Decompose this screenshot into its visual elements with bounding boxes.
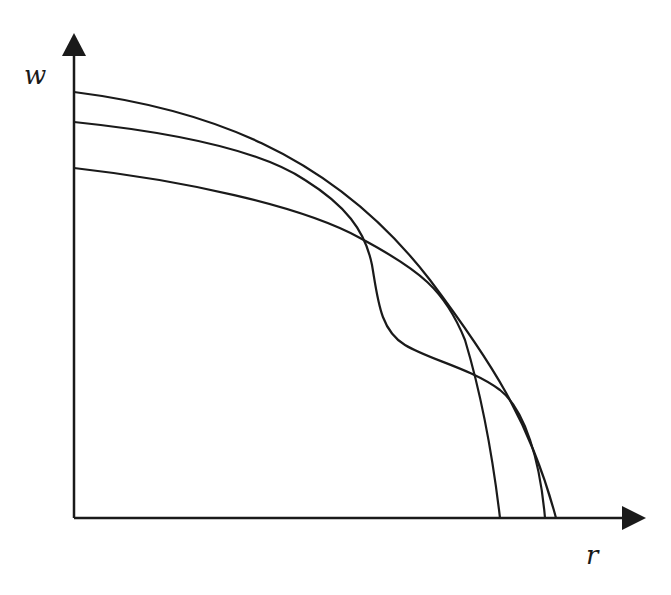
y-axis-arrow-icon (62, 33, 86, 56)
curve-inner (74, 168, 500, 518)
curve-outer-arc (74, 92, 556, 518)
diagram-canvas (0, 0, 671, 595)
x-axis-label: r (586, 540, 598, 570)
curve-wiggly (74, 122, 545, 518)
y-axis-label: w (24, 60, 46, 90)
x-axis-arrow-icon (622, 506, 646, 530)
